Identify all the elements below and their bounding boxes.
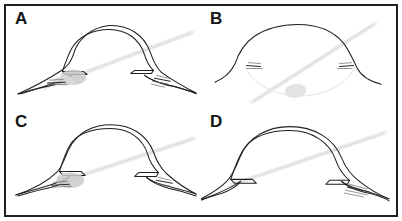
panel-d: D [201,111,396,216]
panel-a-drawing [6,6,201,111]
panel-a: A [6,6,201,111]
panel-c: C [6,111,201,216]
panel-d-drawing [201,111,396,216]
panel-b: B [201,6,396,111]
panel-label-b: B [210,10,222,27]
figure-border: A B [4,4,398,217]
panel-c-drawing [6,111,201,216]
figure-frame: A B [0,0,402,221]
panel-label-a: A [15,10,27,27]
panel-label-c: C [15,113,27,130]
panel-label-d: D [210,113,222,130]
panel-b-drawing [201,6,396,111]
